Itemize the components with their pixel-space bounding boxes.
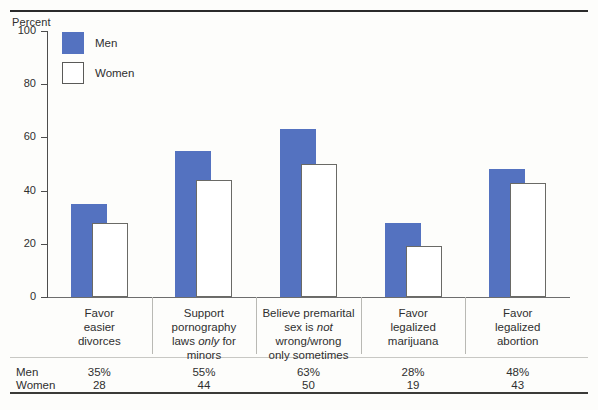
table-cell-women-5: 43: [465, 379, 570, 391]
table-cell-men-5: 48%: [465, 366, 570, 378]
bar-women-4: [406, 246, 442, 297]
y-axis-tick-label: 40: [2, 184, 36, 196]
y-axis-tick: [41, 84, 48, 85]
y-axis-tick: [41, 31, 48, 32]
table-cell-men-3: 63%: [256, 366, 361, 378]
table-cell-women-3: 50: [256, 379, 361, 391]
x-axis-category-label-3: Believe premaritalsex is notwrong/wrongo…: [256, 306, 361, 362]
legend-swatch-women-icon: [62, 62, 84, 84]
table-cell-men-4: 28%: [361, 366, 466, 378]
y-axis-tick-label: 80: [2, 77, 36, 89]
y-axis-tick-label: 20: [2, 237, 36, 249]
bar-women-2: [196, 180, 232, 297]
table-row-label-men: Men: [16, 366, 38, 378]
y-axis-tick: [41, 297, 48, 298]
bar-women-5: [510, 183, 546, 297]
table-cell-men-2: 55%: [152, 366, 257, 378]
y-axis-tick: [41, 244, 48, 245]
x-axis-category-label-1: Favoreasierdivorces: [47, 306, 152, 348]
y-axis-tick-label: 100: [2, 24, 36, 36]
x-axis-line: [47, 297, 570, 298]
table-cell-men-1: 35%: [47, 366, 152, 378]
x-axis-category-label-2: Supportpornographylaws only forminors: [152, 306, 257, 362]
table-cell-women-4: 19: [361, 379, 466, 391]
chart-legend: Men Women: [62, 28, 134, 88]
legend-swatch-men-icon: [62, 32, 84, 54]
table-cell-women-1: 28: [47, 379, 152, 391]
x-axis-category-label-5: Favorlegalizedabortion: [465, 306, 570, 348]
legend-item-women: Women: [62, 58, 134, 88]
y-axis-tick: [41, 191, 48, 192]
legend-item-men: Men: [62, 28, 134, 58]
bar-women-3: [301, 164, 337, 297]
y-axis-tick: [41, 137, 48, 138]
chart-figure: Percent 020406080100 Men Women Men Women…: [0, 0, 598, 410]
x-axis-category-label-4: Favorlegalizedmarijuana: [361, 306, 466, 348]
table-cell-women-2: 44: [152, 379, 257, 391]
bar-women-1: [92, 223, 128, 297]
y-axis-tick-label: 60: [2, 130, 36, 142]
y-axis-tick-label: 0: [2, 290, 36, 302]
legend-label-men: Men: [95, 37, 117, 49]
y-axis-line: [47, 31, 48, 297]
legend-label-women: Women: [95, 67, 134, 79]
